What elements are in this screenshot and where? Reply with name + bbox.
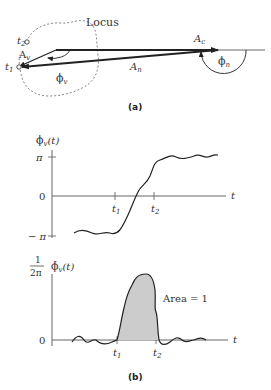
ytick-minus-pi-label: − π [28,231,47,242]
phi-v-arc [48,50,70,58]
freq-ytick-zero-label: 0 [39,335,45,346]
phasor-diagram-figure: Locus t2 t1 Av ϕv An Ac ϕn (a) [0,0,271,390]
An-label: An [129,61,142,74]
locus-label: Locus [86,16,119,29]
area-fill [117,274,159,340]
freq-ylabel-frac-num: 1 [35,255,41,265]
Ac-label: Ac [193,33,205,46]
ytick-zero-label: 0 [39,191,45,202]
t2-label: t2 [17,35,26,48]
t1-point [17,65,21,69]
caption-b: (b) [128,372,143,382]
phi-v-label: ϕv [56,72,68,86]
freq-ylabel-frac-den: 2π [30,268,42,278]
ytick-pi-label: π [35,152,43,163]
xtick-t2-label-bottom: t2 [153,347,162,360]
phi-n-label: ϕn [218,55,231,69]
Av-label: Av [18,49,30,62]
area-annotation: Area = 1 [162,293,208,304]
freq-ylabel: ϕ̇v(t) [51,260,74,274]
xtick-t1-label-bottom: t1 [113,347,122,360]
xtick-t1-label-top: t1 [112,203,121,216]
xtick-t2-label-top: t2 [151,203,160,216]
freq-xlabel: t [233,334,238,345]
t1-label: t1 [5,61,14,74]
caption-a: (a) [128,102,142,112]
panel-a: Locus t2 t1 Av ϕv An Ac ϕn (a) [5,16,265,112]
frequency-plot: 1 2π ϕ̇v(t) 0 t1 t2 t Area = 1 (b) [30,255,238,382]
phase-plot: ϕv(t) π 0 − π t1 t2 t [28,134,236,242]
phase-xlabel: t [231,190,236,201]
phase-ylabel: ϕv(t) [36,134,59,148]
phase-curve [74,155,218,234]
